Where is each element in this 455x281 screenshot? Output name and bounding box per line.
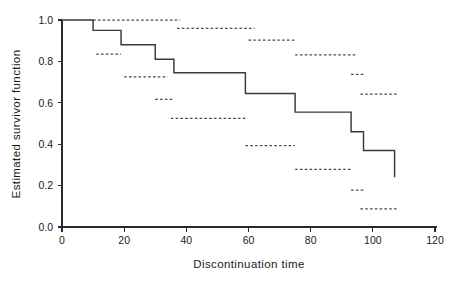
- y-tick-label: 0.0: [38, 221, 53, 233]
- plot-canvas: 0.00.20.40.60.81.0 020406080100120 Disco…: [0, 0, 455, 281]
- y-tick-label: 0.2: [38, 179, 53, 191]
- y-tick-label: 0.6: [38, 97, 53, 109]
- confidence-band-group: [93, 20, 398, 209]
- y-axis-tick-labels: 0.00.20.40.60.81.0: [38, 14, 53, 233]
- survivor-step-curve: [62, 20, 395, 177]
- x-tick-label: 100: [364, 234, 382, 246]
- x-tick-label: 120: [426, 234, 444, 246]
- y-tick-label: 1.0: [38, 14, 53, 26]
- x-axis-tick-labels: 020406080100120: [59, 234, 444, 246]
- y-tick-label: 0.8: [38, 55, 53, 67]
- x-tick-label: 60: [243, 234, 255, 246]
- x-axis-title: Discontinuation time: [193, 258, 305, 270]
- x-tick-label: 40: [180, 234, 192, 246]
- axis-tick-marks: [58, 20, 436, 232]
- x-tick-label: 20: [118, 234, 130, 246]
- x-tick-label: 80: [305, 234, 317, 246]
- survival-plot-figure: 0.00.20.40.60.81.0 020406080100120 Disco…: [0, 0, 455, 281]
- y-tick-label: 0.4: [38, 138, 53, 150]
- y-axis-title: Estimated survivor function: [10, 50, 22, 199]
- x-tick-label: 0: [59, 234, 65, 246]
